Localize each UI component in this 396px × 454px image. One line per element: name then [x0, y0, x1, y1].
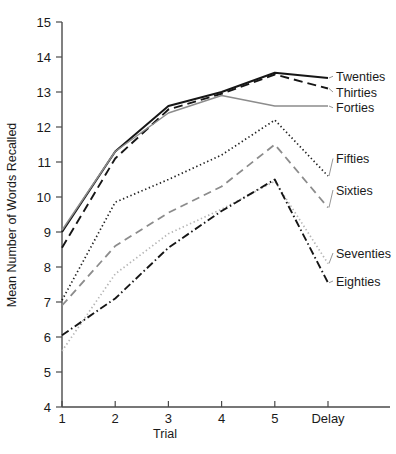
chart-canvas: 456789101112131415 12345Delay TwentiesTh… — [0, 0, 396, 454]
y-tick-label: 11 — [38, 155, 52, 170]
y-tick-label: 15 — [37, 15, 51, 30]
series-label-sixties: Sixties — [336, 184, 373, 198]
series-leader-lines — [329, 76, 333, 283]
x-axis-title: Trial — [153, 427, 177, 441]
y-tick-label: 7 — [44, 295, 51, 310]
series-label-fifties: Fifties — [336, 152, 369, 166]
y-axis-ticks: 456789101112131415 — [37, 15, 62, 415]
series-label-thirties: Thirties — [336, 86, 377, 100]
y-axis-title: Mean Number of Words Recalled — [5, 123, 19, 308]
y-tick-label: 6 — [44, 330, 51, 345]
x-tick-label: 1 — [58, 411, 65, 426]
series-line-forties — [62, 96, 328, 231]
y-tick-label: 12 — [37, 120, 51, 135]
x-tick-label: 5 — [271, 411, 278, 426]
leader-line-thirties — [329, 89, 333, 93]
x-tick-label: 4 — [218, 411, 225, 426]
series-label-group: TwentiesThirtiesFortiesFiftiesSixtiesSev… — [336, 70, 391, 289]
leader-line-forties — [329, 106, 333, 108]
y-tick-label: 5 — [44, 365, 51, 380]
series-label-twenties: Twenties — [336, 70, 385, 84]
recall-by-age-line-chart: 456789101112131415 12345Delay TwentiesTh… — [0, 0, 396, 454]
leader-line-fifties — [329, 159, 333, 177]
x-tick-label: 2 — [112, 411, 119, 426]
leader-line-twenties — [329, 76, 333, 78]
x-tick-label: 3 — [165, 411, 172, 426]
leader-line-eighties — [329, 281, 333, 283]
series-line-fifties — [62, 120, 328, 300]
x-axis-ticks: 12345Delay — [58, 401, 345, 426]
series-path-group — [62, 73, 328, 351]
x-tick-label: Delay — [311, 411, 345, 426]
y-tick-label: 10 — [37, 190, 51, 205]
y-tick-label: 4 — [44, 400, 51, 415]
series-label-seventies: Seventies — [336, 247, 391, 261]
y-tick-label: 14 — [37, 50, 51, 65]
y-tick-label: 8 — [44, 260, 51, 275]
y-tick-label: 9 — [44, 225, 51, 240]
series-label-forties: Forties — [336, 101, 374, 115]
series-label-eighties: Eighties — [336, 275, 380, 289]
leader-line-sixties — [329, 190, 333, 208]
leader-line-seventies — [329, 253, 333, 264]
y-tick-label: 13 — [37, 85, 51, 100]
series-line-twenties — [62, 73, 328, 232]
